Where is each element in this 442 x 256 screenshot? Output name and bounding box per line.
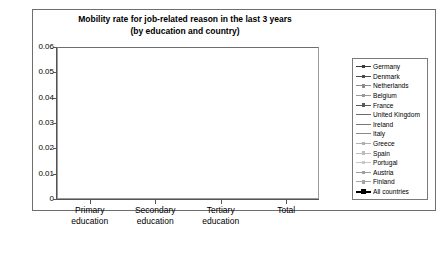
legend-key-icon [356,110,371,119]
legend-item-united-kingdom[interactable]: United Kingdom [356,110,425,120]
legend-key-icon [356,101,371,110]
legend-marker-icon [361,189,366,194]
y-axis-tick-label: 0 [26,195,54,203]
legend-key-icon [356,149,371,158]
legend-item-ireland[interactable]: Ireland [356,120,425,130]
x-axis-tick-label-line: Total [241,205,331,216]
legend-item-finland[interactable]: Finland [356,177,425,187]
legend-line-icon [356,114,371,115]
legend-label: Austria [371,168,394,177]
legend-label: Germany [371,62,400,71]
legend-key-icon [356,177,371,186]
legend-marker-icon [362,84,365,87]
legend-item-netherlands[interactable]: Netherlands [356,81,425,91]
legend-label: Portugal [371,158,398,167]
legend-marker-icon [362,103,365,106]
legend-item-italy[interactable]: Italy [356,129,425,139]
legend-label: Greece [371,139,395,148]
y-axis-tick-label: 0.03 [26,119,54,127]
legend-key-icon [356,129,371,138]
y-axis-tick-label: 0.06 [26,43,54,51]
legend-item-greece[interactable]: Greece [356,139,425,149]
legend-label: Denmark [371,72,400,81]
legend-key-icon [356,91,371,100]
chart-legend: GermanyDenmarkNetherlandsBelgiumFranceUn… [352,58,428,200]
legend-item-spain[interactable]: Spain [356,148,425,158]
legend-label: Ireland [371,120,393,129]
legend-key-icon [356,62,371,71]
legend-marker-icon [362,161,365,164]
legend-label: Finland [371,177,395,186]
legend-marker-icon [362,142,365,145]
chart-title-line2: (by education and country) [40,26,330,38]
legend-key-icon [356,81,371,90]
legend-label: Spain [371,149,390,158]
chart-title: Mobility rate for job-related reason in … [40,14,330,37]
legend-item-all-countries[interactable]: All countries [356,187,425,197]
legend-key-icon [356,139,371,148]
legend-key-icon [356,120,371,129]
legend-item-france[interactable]: France [356,100,425,110]
legend-label: United Kingdom [371,110,420,119]
legend-label: Netherlands [371,81,409,90]
legend-line-icon [356,124,371,125]
x-axis-tick-mark [90,200,91,204]
legend-label: All countries [371,187,409,196]
chart-screenshot: Mobility rate for job-related reason in … [0,0,442,256]
legend-key-icon [356,72,371,81]
x-axis-tick-mark [286,200,287,204]
legend-label: France [371,101,394,110]
x-axis-tick-mark [221,200,222,204]
y-axis-tick-label: 0.02 [26,144,54,152]
x-axis-tick-mark [155,200,156,204]
legend-line-icon [356,133,371,134]
legend-item-portugal[interactable]: Portugal [356,158,425,168]
legend-marker-icon [362,171,365,174]
legend-item-belgium[interactable]: Belgium [356,91,425,101]
y-axis-tick-label: 0.01 [26,170,54,178]
legend-label: Italy [371,129,385,138]
plot-background [57,47,319,199]
chart-title-line1: Mobility rate for job-related reason in … [40,14,330,26]
legend-marker-icon [362,65,365,68]
legend-item-germany[interactable]: Germany [356,62,425,72]
legend-marker-icon [362,94,365,97]
legend-marker-icon [362,180,365,183]
legend-key-icon [356,158,371,167]
legend-key-icon [356,168,371,177]
legend-item-austria[interactable]: Austria [356,168,425,178]
plot-area [57,47,319,199]
legend-marker-icon [362,151,365,154]
legend-item-denmark[interactable]: Denmark [356,72,425,82]
legend-key-icon [356,187,371,196]
y-axis-tick-label: 0.05 [26,68,54,76]
y-axis-tick-label: 0.04 [26,94,54,102]
y-axis-tick-mark [53,199,57,200]
legend-marker-icon [362,75,365,78]
x-axis-line [57,199,319,200]
legend-label: Belgium [371,91,397,100]
x-axis-tick-label: Total [241,205,331,216]
x-axis-tick-label-line: education [176,216,266,227]
